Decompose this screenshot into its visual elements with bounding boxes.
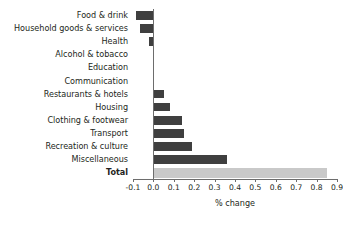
- x-tick: [215, 179, 216, 182]
- bar: [153, 90, 163, 99]
- row-plot-area: [133, 114, 337, 127]
- chart-row: Clothing & footwear: [0, 114, 337, 127]
- bar: [153, 168, 326, 178]
- x-tick-label: 0.8: [311, 183, 323, 192]
- category-label: Clothing & footwear: [0, 116, 133, 125]
- chart-rows: Food & drinkHousehold goods & servicesHe…: [0, 9, 337, 179]
- bar: [153, 142, 192, 151]
- row-plot-area: [133, 166, 337, 179]
- row-plot-area: [133, 88, 337, 101]
- row-plot-area: [133, 127, 337, 140]
- row-plot-area: [133, 48, 337, 61]
- row-plot-area: [133, 9, 337, 22]
- category-label: Health: [0, 37, 133, 46]
- category-label: Education: [0, 63, 133, 72]
- category-label: Total: [0, 168, 133, 177]
- x-tick-label: 0.5: [249, 183, 261, 192]
- category-label: Restaurants & hotels: [0, 90, 133, 99]
- x-tick: [194, 179, 195, 182]
- category-label: Communication: [0, 77, 133, 86]
- x-tick-label: 0.0: [147, 183, 159, 192]
- chart-row: Health: [0, 35, 337, 48]
- zero-axis-line: [153, 9, 154, 180]
- x-tick: [235, 179, 236, 182]
- chart-row: Alcohol & tobacco: [0, 48, 337, 61]
- x-tick-label: 0.1: [168, 183, 180, 192]
- x-tick: [133, 179, 134, 182]
- chart-row: Housing: [0, 101, 337, 114]
- category-label: Alcohol & tobacco: [0, 50, 133, 59]
- chart-row: Food & drink: [0, 9, 337, 22]
- chart-row: Education: [0, 61, 337, 74]
- bar: [140, 24, 153, 33]
- category-label: Household goods & services: [0, 24, 133, 33]
- category-label: Housing: [0, 103, 133, 112]
- category-label: Miscellaneous: [0, 155, 133, 164]
- chart-row: Restaurants & hotels: [0, 88, 337, 101]
- x-tick: [337, 179, 338, 182]
- chart-row: Total: [0, 166, 337, 179]
- chart-row: Recreation & culture: [0, 140, 337, 153]
- x-tick-label: 0.4: [229, 183, 241, 192]
- row-plot-area: [133, 35, 337, 48]
- x-tick-label: -0.1: [126, 183, 141, 192]
- x-tick-label: 0.9: [331, 183, 343, 192]
- category-label: Food & drink: [0, 11, 133, 20]
- x-tick: [174, 179, 175, 182]
- bar: [153, 103, 169, 112]
- bar: [153, 116, 182, 125]
- chart-row: Miscellaneous: [0, 153, 337, 166]
- row-plot-area: [133, 101, 337, 114]
- bar: [153, 129, 184, 138]
- x-tick: [296, 179, 297, 182]
- x-tick: [317, 179, 318, 182]
- chart-row: Household goods & services: [0, 22, 337, 35]
- row-plot-area: [133, 153, 337, 166]
- row-plot-area: [133, 61, 337, 74]
- row-plot-area: [133, 140, 337, 153]
- bar: [136, 11, 153, 20]
- x-tick-label: 0.7: [290, 183, 302, 192]
- x-tick: [255, 179, 256, 182]
- x-tick-label: 0.2: [188, 183, 200, 192]
- category-label: Transport: [0, 129, 133, 138]
- chart-row: Communication: [0, 74, 337, 87]
- chart-row: Transport: [0, 127, 337, 140]
- x-tick: [153, 179, 154, 182]
- row-plot-area: [133, 74, 337, 87]
- bar: [153, 155, 226, 164]
- x-tick-label: 0.3: [209, 183, 221, 192]
- x-axis-title: % change: [133, 198, 337, 208]
- row-plot-area: [133, 22, 337, 35]
- x-tick-label: 0.6: [270, 183, 282, 192]
- x-tick: [276, 179, 277, 182]
- category-label: Recreation & culture: [0, 142, 133, 151]
